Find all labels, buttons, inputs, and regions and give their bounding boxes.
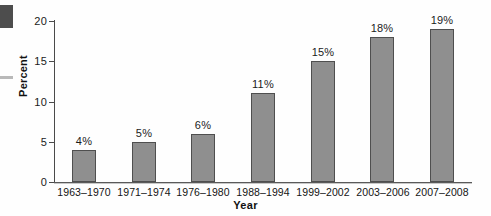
y-axis-tick-label-text: 5 xyxy=(22,136,47,148)
bar-value-label: 11% xyxy=(233,78,293,90)
bar-value-label: 6% xyxy=(173,119,233,131)
x-axis-category-label: 2003–2006 xyxy=(353,186,413,198)
x-axis-category-label: 1971–1974 xyxy=(114,186,174,198)
x-axis-line-shadow xyxy=(54,183,472,184)
scan-edge-tick-artifact xyxy=(0,76,13,79)
x-axis-title: Year xyxy=(0,199,491,211)
y-axis-tick-label-text: 0 xyxy=(22,176,47,188)
bar xyxy=(72,150,96,182)
bar xyxy=(251,93,275,182)
bar xyxy=(370,37,394,182)
x-axis-category-label: 2007–2008 xyxy=(412,186,472,198)
bar-value-label: 5% xyxy=(114,127,174,139)
x-axis-category-label: 1999–2002 xyxy=(293,186,353,198)
bar-value-label: 19% xyxy=(412,14,472,26)
y-axis-tick-label: 5 xyxy=(22,136,47,148)
y-axis-tick-mark xyxy=(49,21,54,22)
scan-edge-block-artifact xyxy=(0,5,13,28)
y-axis-tick-mark xyxy=(49,182,54,183)
bar xyxy=(430,29,454,182)
x-axis-category-label: 1976–1980 xyxy=(173,186,233,198)
bar xyxy=(132,142,156,182)
x-axis-category-label: 1988–1994 xyxy=(233,186,293,198)
bar-value-label: 4% xyxy=(54,135,114,147)
bar xyxy=(191,134,215,182)
y-axis-tick-label: 0 xyxy=(22,176,47,188)
bar-value-label: 18% xyxy=(352,22,412,34)
bar xyxy=(311,61,335,182)
y-axis-tick-mark xyxy=(49,61,54,62)
y-axis-title: Percent xyxy=(17,36,29,116)
y-axis-tick-mark xyxy=(49,102,54,103)
bar-value-label: 15% xyxy=(293,46,353,58)
y-axis-tick-label: 20 xyxy=(22,15,47,27)
chart-page: 05101520 4%5%6%11%15%18%19% 1963–1970197… xyxy=(0,0,491,216)
y-axis-line xyxy=(54,20,55,183)
x-axis-category-label: 1963–1970 xyxy=(54,186,114,198)
y-axis-tick-label-text: 20 xyxy=(22,15,47,27)
